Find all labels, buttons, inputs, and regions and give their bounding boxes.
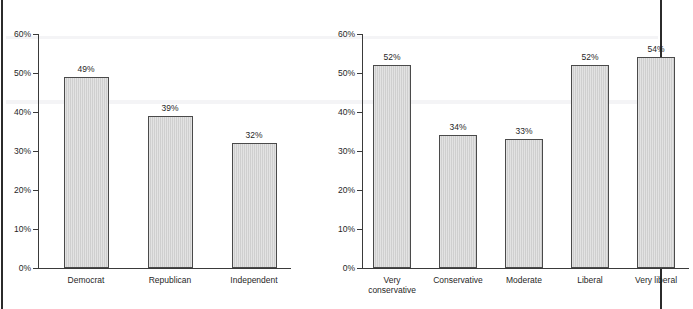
y-tick-party-0: [33, 268, 38, 269]
x-category-label-party-2: Independent: [216, 275, 292, 285]
x-category-label-line: Republican: [132, 275, 208, 285]
chart-panel-party: 0%10%20%30%40%50%60%49%Democrat39%Republ…: [8, 0, 318, 309]
y-tick-label-ideology-20: 20%: [324, 186, 355, 195]
x-category-label-ideology-0: Veryconservative: [354, 275, 430, 295]
y-tick-ideology-40: [357, 112, 362, 113]
y-tick-label-party-50: 50%: [0, 69, 31, 78]
plot-area-ideology: 0%10%20%30%40%50%60%52%Veryconservative3…: [330, 0, 656, 309]
x-category-label-line: Very liberal: [618, 275, 693, 285]
bar-party-1: [148, 116, 193, 268]
x-category-label-line: Conservative: [420, 275, 496, 285]
x-axis-party: [38, 268, 291, 269]
bar-ideology-4: [637, 57, 675, 268]
bar-ideology-1: [439, 135, 477, 268]
y-tick-party-30: [33, 151, 38, 152]
bar-value-label-party-0: 49%: [56, 65, 116, 74]
x-category-label-line: Democrat: [48, 275, 124, 285]
x-category-label-line: conservative: [354, 285, 430, 295]
bar-value-label-ideology-4: 54%: [626, 45, 686, 54]
y-tick-party-10: [33, 229, 38, 230]
chart-panel-ideology: 0%10%20%30%40%50%60%52%Veryconservative3…: [330, 0, 656, 309]
bar-ideology-0: [373, 65, 411, 268]
x-category-label-line: Moderate: [486, 275, 562, 285]
x-category-label-line: Liberal: [552, 275, 628, 285]
x-axis-ideology: [362, 268, 689, 269]
y-tick-party-60: [33, 34, 38, 35]
y-tick-label-party-30: 30%: [0, 147, 31, 156]
y-tick-ideology-20: [357, 190, 362, 191]
y-axis-ideology: [362, 34, 363, 269]
y-tick-label-party-10: 10%: [0, 225, 31, 234]
y-tick-label-ideology-60: 60%: [324, 30, 355, 39]
y-tick-label-party-0: 0%: [0, 264, 31, 273]
bar-value-label-ideology-3: 52%: [560, 53, 620, 62]
y-tick-label-ideology-40: 40%: [324, 108, 355, 117]
y-tick-ideology-50: [357, 73, 362, 74]
x-category-label-ideology-2: Moderate: [486, 275, 562, 285]
bar-value-label-ideology-0: 52%: [362, 53, 422, 62]
x-category-label-party-1: Republican: [132, 275, 208, 285]
y-tick-ideology-60: [357, 34, 362, 35]
y-tick-ideology-30: [357, 151, 362, 152]
y-tick-label-ideology-30: 30%: [324, 147, 355, 156]
bar-party-0: [64, 77, 109, 268]
plot-area-party: 0%10%20%30%40%50%60%49%Democrat39%Republ…: [8, 0, 318, 309]
y-tick-ideology-10: [357, 229, 362, 230]
bar-party-2: [232, 143, 277, 268]
bar-value-label-party-1: 39%: [140, 104, 200, 113]
y-axis-party: [38, 34, 39, 269]
y-tick-label-party-20: 20%: [0, 186, 31, 195]
y-tick-label-party-60: 60%: [0, 30, 31, 39]
y-tick-party-20: [33, 190, 38, 191]
x-category-label-ideology-4: Very liberal: [618, 275, 693, 285]
x-category-label-ideology-3: Liberal: [552, 275, 628, 285]
y-tick-label-ideology-10: 10%: [324, 225, 355, 234]
y-tick-label-ideology-50: 50%: [324, 69, 355, 78]
bar-ideology-2: [505, 139, 543, 268]
y-tick-label-party-40: 40%: [0, 108, 31, 117]
bar-ideology-3: [571, 65, 609, 268]
bar-value-label-party-2: 32%: [224, 131, 284, 140]
x-category-label-ideology-1: Conservative: [420, 275, 496, 285]
bar-value-label-ideology-2: 33%: [494, 127, 554, 136]
bar-value-label-ideology-1: 34%: [428, 123, 488, 132]
y-tick-party-40: [33, 112, 38, 113]
x-category-label-party-0: Democrat: [48, 275, 124, 285]
x-category-label-line: Independent: [216, 275, 292, 285]
x-category-label-line: Very: [354, 275, 430, 285]
y-tick-party-50: [33, 73, 38, 74]
y-tick-label-ideology-0: 0%: [324, 264, 355, 273]
y-tick-ideology-0: [357, 268, 362, 269]
